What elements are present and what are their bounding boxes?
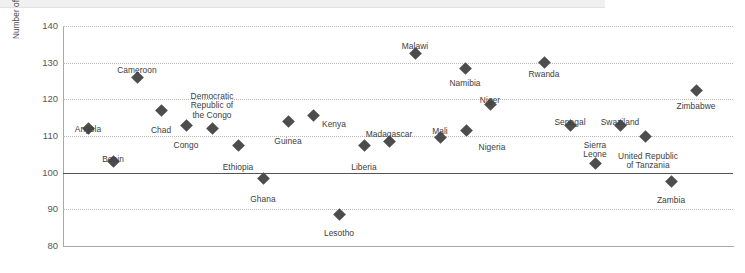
data-point-marker[interactable]	[459, 62, 472, 75]
data-point-marker[interactable]	[257, 172, 270, 185]
data-point-marker[interactable]	[358, 139, 371, 152]
data-point-label: Senegal	[554, 118, 585, 127]
top-gray-bar-edge	[0, 7, 605, 8]
data-point-label: Ethiopia	[223, 163, 254, 172]
data-point-label: Ghana	[250, 195, 275, 204]
y-tick-140: 140	[18, 21, 58, 31]
gridline	[63, 63, 733, 64]
data-point-marker[interactable]	[665, 175, 678, 188]
data-point-label: Rwanda	[528, 70, 559, 79]
data-point-label: Niger	[480, 96, 500, 105]
gridline	[63, 209, 733, 210]
gridline	[63, 99, 733, 100]
data-point-marker[interactable]	[538, 56, 551, 69]
data-point-label: Liberia	[351, 163, 377, 172]
x-axis-line	[63, 246, 734, 247]
data-point-marker[interactable]	[690, 84, 703, 97]
data-point-marker[interactable]	[180, 119, 193, 132]
poverty-gender-scatter-chart: Number of women in poverty for every 100…	[0, 0, 745, 273]
data-point-marker[interactable]	[232, 139, 245, 152]
data-point-label: Zimbabwe	[676, 102, 715, 111]
y-tick-80: 80	[18, 241, 58, 251]
data-point-marker[interactable]	[460, 124, 473, 137]
y-tick-90: 90	[18, 204, 58, 214]
gridline	[63, 26, 733, 27]
data-point-label: Zambia	[657, 196, 685, 205]
data-point-marker[interactable]	[333, 208, 346, 221]
data-point-label: Cameroon	[117, 66, 157, 75]
data-point-marker[interactable]	[155, 104, 168, 117]
y-axis-tick-labels: 8090100110120130140	[16, 26, 58, 246]
reference-line-100	[63, 173, 733, 174]
plot-area: AngolaBeninCameroonChadCongoDemocratic R…	[63, 26, 733, 246]
data-point-label: Guinea	[274, 137, 301, 146]
data-point-label: Democratic Republic of the Congo	[191, 92, 234, 120]
data-point-marker[interactable]	[206, 122, 219, 135]
y-tick-130: 130	[18, 58, 58, 68]
data-point-label: Benin	[102, 155, 124, 164]
data-point-label: Angola	[75, 125, 101, 134]
top-gray-bar	[0, 0, 605, 7]
data-point-label: Chad	[151, 126, 171, 135]
data-point-label: Mali	[432, 127, 448, 136]
data-point-label: Swaziland	[601, 118, 640, 127]
data-point-label: Lesotho	[324, 229, 354, 238]
data-point-label: Namibia	[449, 79, 480, 88]
data-point-marker[interactable]	[282, 115, 295, 128]
data-point-label: Madagascar	[366, 130, 413, 139]
data-point-marker[interactable]	[307, 109, 320, 122]
y-tick-100: 100	[18, 168, 58, 178]
data-point-marker[interactable]	[639, 130, 652, 143]
data-point-label: Kenya	[322, 120, 346, 129]
data-point-label: Sierra Leone	[583, 141, 607, 160]
y-tick-110: 110	[18, 131, 58, 141]
data-point-label: Nigeria	[479, 143, 506, 152]
data-point-label: Malawi	[402, 42, 428, 51]
data-point-label: United Republic of Tanzania	[618, 152, 678, 171]
y-tick-120: 120	[18, 94, 58, 104]
data-point-label: Congo	[174, 141, 199, 150]
